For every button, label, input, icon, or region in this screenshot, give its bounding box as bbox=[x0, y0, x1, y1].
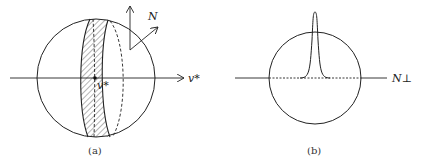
peak-curve bbox=[300, 12, 330, 78]
normal-diagonal-arrow bbox=[130, 27, 158, 50]
point-label: v* bbox=[97, 79, 109, 92]
axis-label-n-perp: N⊥ bbox=[391, 72, 412, 85]
figure: v* v* N (a) N⊥ (b) bbox=[0, 0, 422, 164]
panel-b: N⊥ (b) bbox=[235, 12, 412, 156]
caption-b: (b) bbox=[307, 145, 321, 156]
caption-a: (a) bbox=[88, 145, 102, 156]
normal-label: N bbox=[147, 10, 158, 23]
dashed-ellipse-edge bbox=[110, 21, 123, 136]
axis-label-v-star: v* bbox=[188, 72, 200, 85]
panel-a: v* v* N (a) bbox=[10, 6, 200, 156]
